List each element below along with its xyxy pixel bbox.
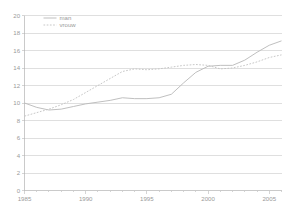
y-axis-tickmarks: [22, 16, 25, 191]
y-tick-label-8: 8: [17, 117, 21, 124]
y-tick-label-20: 20: [13, 12, 20, 19]
chart-canvas: 02468101214161820 19851990199520002005 m…: [0, 0, 288, 216]
y-tick-label-14: 14: [13, 64, 20, 71]
series-line-man: [25, 41, 282, 110]
y-tick-label-16: 16: [13, 47, 20, 54]
x-tick-label-2000: 2000: [201, 195, 215, 202]
x-axis-tickmarks: [25, 191, 282, 194]
y-tick-label-10: 10: [13, 99, 20, 106]
legend-label-man: man: [60, 14, 72, 21]
chart-legend: manvrouw: [44, 14, 77, 28]
legend-label-vrouw: vrouw: [60, 21, 77, 28]
y-tick-label-4: 4: [17, 152, 21, 159]
y-tick-label-18: 18: [13, 29, 20, 36]
x-tick-label-2005: 2005: [262, 195, 276, 202]
gridlines-group: [25, 16, 282, 174]
series-group: [25, 41, 282, 116]
x-tick-label-1990: 1990: [79, 195, 93, 202]
y-axis-tick-labels: 02468101214161820: [13, 12, 20, 194]
y-tick-label-0: 0: [17, 187, 21, 194]
y-tick-label-6: 6: [17, 134, 21, 141]
x-axis-tick-labels: 19851990199520002005: [18, 195, 277, 202]
x-tick-label-1995: 1995: [140, 195, 154, 202]
x-tick-label-1985: 1985: [18, 195, 32, 202]
line-chart: 02468101214161820 19851990199520002005 m…: [0, 0, 288, 216]
y-tick-label-12: 12: [13, 82, 20, 89]
y-tick-label-2: 2: [17, 169, 21, 176]
